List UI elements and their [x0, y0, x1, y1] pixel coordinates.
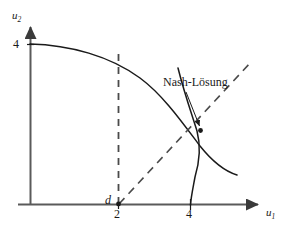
- x-axis-label: u1: [266, 207, 275, 221]
- disagreement-point-label: d: [105, 194, 111, 206]
- y-axis-label-subscript: 2: [18, 15, 22, 24]
- figure-canvas: [0, 0, 288, 236]
- x-tick-label-4: 4: [186, 208, 192, 220]
- y-axis-label: u2: [12, 10, 21, 24]
- nash-solution-pointer: [186, 92, 200, 126]
- disagreement-point-marker: [116, 202, 121, 207]
- y-tick-label-4: 4: [13, 38, 19, 50]
- nash-bargaining-figure: u2 u1 4 2 4 d Nash-Lösung: [0, 0, 288, 236]
- nash-solution-annotation: Nash-Lösung: [163, 76, 228, 88]
- x-tick-label-2: 2: [114, 208, 120, 220]
- x-axis-label-subscript: 1: [272, 212, 276, 221]
- nash-solution-point-marker: [198, 128, 203, 133]
